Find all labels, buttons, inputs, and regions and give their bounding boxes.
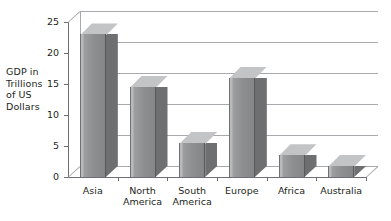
x-axis-tick	[366, 177, 367, 181]
x-axis-label-africa: Africa	[267, 185, 317, 196]
bar-europe[interactable]	[229, 67, 267, 177]
x-axis-label-line: Asia	[68, 185, 118, 196]
y-axis-tick-label: 25	[37, 17, 59, 27]
bar-australia[interactable]	[328, 155, 366, 177]
y-axis-tick-label: 15	[37, 79, 59, 89]
bar-front-face	[130, 87, 156, 177]
x-axis-label-australia: Australia	[316, 185, 366, 196]
bar-north-america[interactable]	[130, 76, 168, 177]
x-axis-tick	[167, 177, 168, 181]
floor-right-diagonal	[366, 166, 379, 178]
x-axis-label-line: Europe	[217, 185, 267, 196]
gridline	[80, 42, 378, 43]
bar-side-face	[354, 166, 366, 177]
x-axis-tick	[217, 177, 218, 181]
x-axis-label-line: America	[167, 196, 217, 207]
x-axis-label-line: North	[118, 185, 168, 196]
bar-side-face	[305, 155, 317, 177]
bar-side-face	[156, 87, 168, 177]
y-axis-tick-label: 5	[37, 141, 59, 151]
y-axis-tick-label: 10	[37, 110, 59, 120]
bar-front-face	[80, 34, 106, 177]
x-axis-tick	[267, 177, 268, 181]
bar-front-face	[328, 166, 354, 177]
bar-south-america[interactable]	[179, 132, 217, 177]
bar-asia[interactable]	[80, 23, 118, 177]
x-axis-label-line: America	[118, 196, 168, 207]
y-axis-tick-label: 20	[37, 48, 59, 58]
bar-side-face	[205, 143, 217, 177]
x-axis-label-asia: Asia	[68, 185, 118, 196]
bar-front-face	[229, 78, 255, 177]
x-axis-label-north-america: NorthAmerica	[118, 185, 168, 208]
plot-area: 0510152025AsiaNorthAmericaSouthAmericaEu…	[0, 0, 391, 221]
gridline	[80, 11, 378, 12]
y-axis-line	[68, 22, 69, 178]
bar-side-face	[255, 78, 267, 177]
x-axis-label-line: South	[167, 185, 217, 196]
bar-africa[interactable]	[279, 144, 317, 177]
bar-front-face	[279, 155, 305, 177]
x-axis-tick	[118, 177, 119, 181]
x-axis-label-europe: Europe	[217, 185, 267, 196]
y-axis-tick-label: 0	[37, 172, 59, 182]
bar-side-face	[106, 34, 118, 177]
x-axis-label-line: Africa	[267, 185, 317, 196]
x-axis-label-line: Australia	[316, 185, 366, 196]
x-axis-label-south-america: SouthAmerica	[167, 185, 217, 208]
bar-front-face	[179, 143, 205, 177]
x-axis-tick	[316, 177, 317, 181]
gdp-bar-chart: GDP in Trillions of US Dollars 051015202…	[0, 0, 391, 221]
wall-top-diagonal	[68, 11, 81, 23]
